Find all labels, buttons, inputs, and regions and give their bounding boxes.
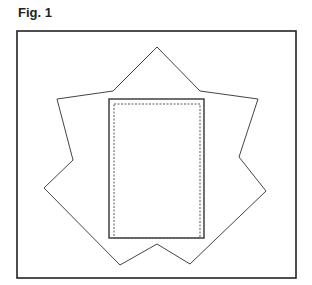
figure-frame: [17, 31, 296, 278]
diagram-canvas: [0, 0, 312, 285]
outer-rectangle: [109, 99, 204, 238]
star-outline: [44, 47, 266, 265]
inner-dashed-rectangle: [114, 104, 200, 238]
